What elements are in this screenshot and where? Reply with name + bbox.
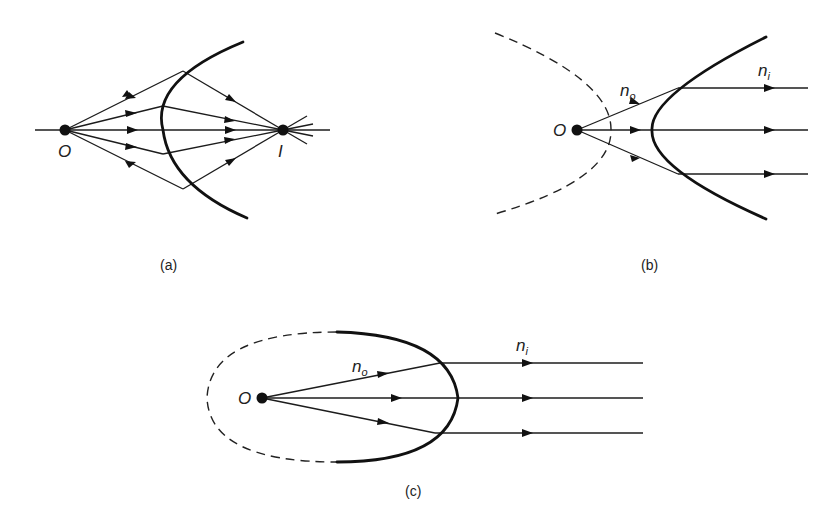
object-point bbox=[257, 393, 268, 404]
panel-c: O no ni (c) bbox=[207, 332, 643, 499]
hyperbolic-surface bbox=[652, 37, 766, 219]
collimated-rays bbox=[678, 88, 808, 174]
n-inside-label: ni bbox=[516, 336, 528, 357]
caption-a: (a) bbox=[160, 257, 177, 273]
object-label: O bbox=[58, 142, 71, 161]
optics-figure: O I (a) O no ni (b) bbox=[0, 0, 838, 527]
dashed-ellipse-remainder bbox=[207, 332, 337, 462]
image-label: I bbox=[278, 142, 283, 161]
n-inside-label: ni bbox=[758, 61, 770, 82]
incident-rays bbox=[577, 88, 808, 174]
object-point bbox=[572, 125, 583, 136]
object-point bbox=[60, 125, 71, 136]
incident-rays bbox=[262, 363, 643, 433]
ray-arrows bbox=[122, 90, 236, 168]
object-label: O bbox=[238, 389, 251, 408]
panel-b: O no ni (b) bbox=[495, 33, 808, 273]
object-label: O bbox=[553, 121, 566, 140]
caption-c: (c) bbox=[405, 483, 421, 499]
caption-b: (b) bbox=[641, 257, 658, 273]
panel-a: O I (a) bbox=[35, 42, 330, 273]
n-outside-label: no bbox=[352, 357, 368, 378]
n-outside-label: no bbox=[620, 81, 636, 102]
image-point bbox=[278, 125, 289, 136]
